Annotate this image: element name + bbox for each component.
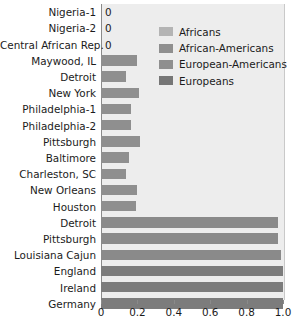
category-label: Nigeria-1 [0,4,96,20]
bar-row: England [0,263,292,279]
legend-swatch-icon [159,60,173,69]
legend-label: Europeans [179,73,234,89]
zero-value-label: 0 [105,20,112,36]
bar-row: Ireland [0,280,292,296]
x-tick-label: 0.8 [238,305,255,319]
bar-row: New Orleans [0,182,292,198]
zero-value-label: 0 [105,37,112,53]
category-label: Houston [0,199,96,215]
category-label: Maywood, IL [0,53,96,69]
category-label: New York [0,85,96,101]
bar [101,169,126,179]
bar [101,233,278,243]
x-tick-label: 0 [98,305,105,319]
bar-row: Philadelphia-2 [0,118,292,134]
bar-row: Houston [0,199,292,215]
bar-row: Philadelphia-1 [0,101,292,117]
category-label: Louisiana Cajun [0,247,96,263]
bar-row: Nigeria-10 [0,4,292,20]
bar-row: Charleston, SC [0,166,292,182]
category-label: Charleston, SC [0,166,96,182]
bar [101,104,131,114]
bar [101,282,283,292]
legend-item: European-Americans [159,56,289,72]
bar [101,217,278,227]
x-tick-label: 0.4 [166,305,183,319]
category-label: Baltimore [0,150,96,166]
category-label: Pittsburgh [0,231,96,247]
category-label: Detroit [0,215,96,231]
bar [101,136,140,146]
bar-row: Pittsburgh [0,134,292,150]
x-tick-label: 1.0 [275,305,292,319]
bar-row: Detroit [0,215,292,231]
x-tick [283,300,284,304]
bar [101,201,136,211]
legend-swatch-icon [159,44,173,53]
zero-value-label: 0 [105,4,112,20]
legend-item: Europeans [159,73,289,89]
x-tick [247,300,248,304]
category-label: Detroit [0,69,96,85]
bar [101,185,137,195]
bar [101,120,131,130]
bar-row: Louisiana Cajun [0,247,292,263]
bar [101,88,139,98]
chart-legend: AfricansAfrican-AmericansEuropean-Americ… [159,24,289,89]
category-label: New Orleans [0,182,96,198]
category-label: Philadelphia-2 [0,118,96,134]
bar [101,152,129,162]
legend-label: European-Americans [179,56,287,72]
bar-row: Baltimore [0,150,292,166]
x-tick [210,300,211,304]
category-label: Ireland [0,280,96,296]
legend-item: Africans [159,24,289,40]
category-label: Central African Rep. [0,37,96,53]
bar-row: Pittsburgh [0,231,292,247]
legend-item: African-Americans [159,40,289,56]
bar [101,266,283,276]
x-tick [137,300,138,304]
category-label: England [0,263,96,279]
x-tick [101,300,102,304]
bar [101,71,126,81]
legend-swatch-icon [159,27,173,36]
x-tick [174,300,175,304]
bar [101,55,137,65]
category-label: Nigeria-2 [0,20,96,36]
x-tick-label: 0.2 [129,305,146,319]
x-tick-label: 0.6 [202,305,219,319]
category-label: Pittsburgh [0,134,96,150]
legend-label: African-Americans [179,40,274,56]
legend-swatch-icon [159,76,173,85]
bar [101,250,281,260]
bar-chart: Nigeria-10Nigeria-20Central African Rep.… [0,0,292,327]
category-label: Germany [0,296,96,312]
category-label: Philadelphia-1 [0,101,96,117]
legend-label: Africans [179,24,221,40]
